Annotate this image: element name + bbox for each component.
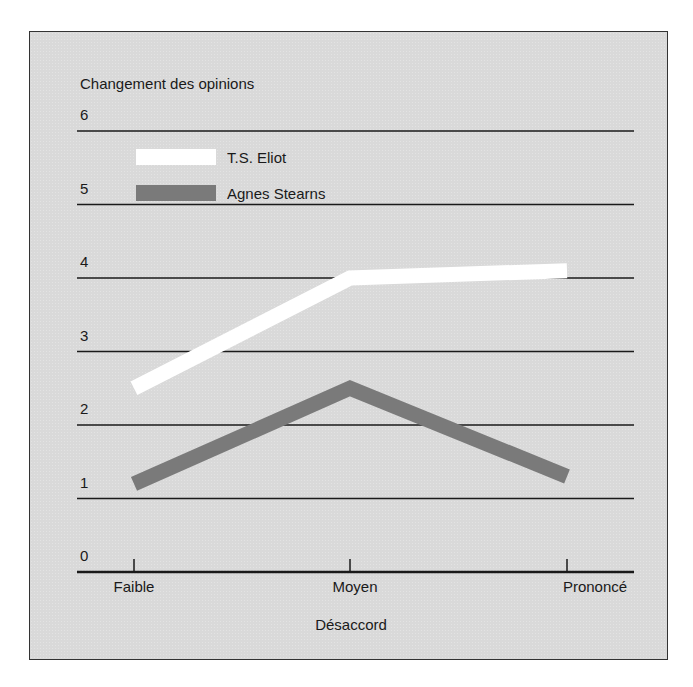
y-tick-label: 0 <box>80 547 88 564</box>
series-line-t-s-eliot <box>134 271 567 389</box>
y-tick-label: 6 <box>80 106 88 123</box>
x-tick-label: Prononcé <box>563 578 627 595</box>
y-tick-label: 5 <box>80 180 88 197</box>
y-axis-label: Changement des opinions <box>80 75 254 92</box>
line-chart: 0123456 Changement des opinions T.S. Eli… <box>0 0 693 687</box>
series-lines <box>134 271 567 484</box>
series-line-agnes-stearns <box>134 388 567 484</box>
y-tick-label: 3 <box>80 327 88 344</box>
legend: T.S. EliotAgnes Stearns <box>136 149 325 202</box>
x-tick-label: Moyen <box>332 578 377 595</box>
legend-swatch <box>136 149 216 165</box>
y-tick-label: 1 <box>80 474 88 491</box>
x-axis: FaibleMoyenPrononcé <box>77 559 634 595</box>
legend-label: Agnes Stearns <box>227 185 325 202</box>
y-tick-label: 4 <box>80 253 88 270</box>
legend-label: T.S. Eliot <box>227 149 287 166</box>
y-tick-label: 2 <box>80 400 88 417</box>
y-axis-ticks: 0123456 <box>80 106 88 564</box>
x-tick-label: Faible <box>114 578 155 595</box>
x-axis-label: Désaccord <box>315 616 387 633</box>
legend-swatch <box>136 185 216 201</box>
